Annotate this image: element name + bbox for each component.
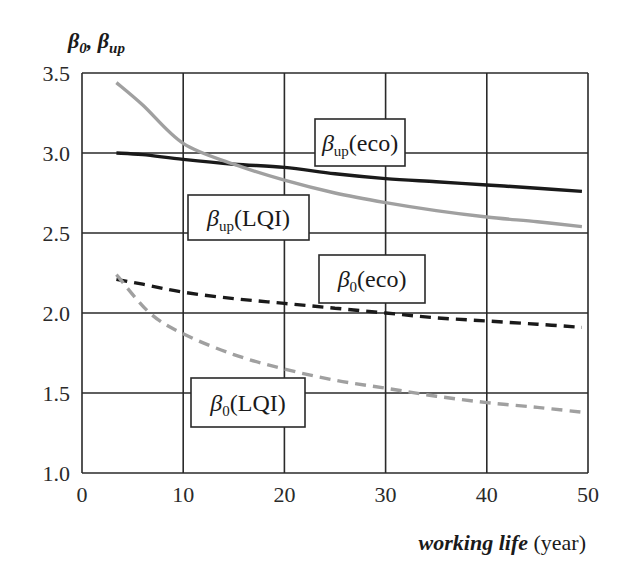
- series-label-text: βup(LQI): [206, 205, 290, 234]
- y-tick-label: 1.0: [43, 461, 71, 486]
- x-tick-label: 0: [77, 482, 88, 507]
- series-label-text: β0(LQI): [209, 390, 285, 419]
- y-axis-title: β0, βup: [67, 28, 125, 56]
- series-labels: βup(eco)βup(LQI)β0(eco)β0(LQI): [188, 119, 425, 427]
- y-tick-label: 2.5: [43, 221, 71, 246]
- x-tick-label: 50: [577, 482, 599, 507]
- series-label-text: β0(eco): [337, 266, 407, 295]
- x-tick-label: 40: [476, 482, 498, 507]
- line-chart: βup(eco)βup(LQI)β0(eco)β0(LQI) 010203040…: [0, 0, 628, 573]
- series-label-box: βup(eco): [315, 119, 405, 166]
- x-tick-label: 30: [375, 482, 397, 507]
- series-label-box: β0(eco): [319, 255, 425, 303]
- x-tick-label: 10: [172, 482, 194, 507]
- x-tick-label: 20: [273, 482, 295, 507]
- y-tick-label: 3.0: [43, 141, 71, 166]
- series-label-text: βup(eco): [321, 130, 398, 159]
- y-tick-label: 3.5: [43, 61, 71, 86]
- x-axis-title: working life (year): [419, 530, 586, 555]
- y-tick-label: 2.0: [43, 301, 71, 326]
- series-label-box: βup(LQI): [188, 195, 309, 240]
- series-label-box: β0(LQI): [191, 378, 305, 427]
- y-tick-label: 1.5: [43, 381, 71, 406]
